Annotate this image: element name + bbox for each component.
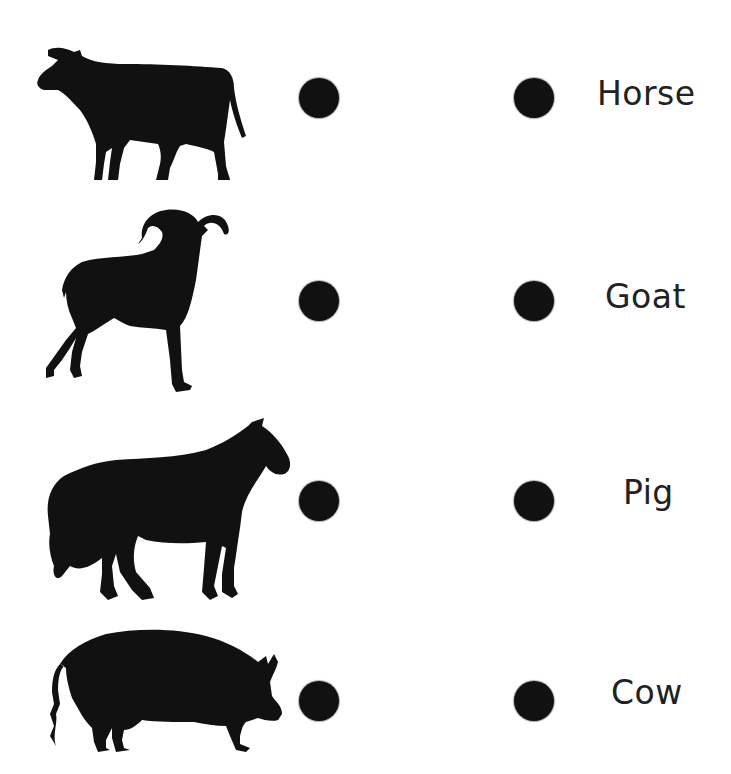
right-match-dot-2[interactable]	[514, 281, 554, 321]
left-match-dot-3[interactable]	[299, 481, 339, 521]
left-match-dot-1[interactable]	[299, 78, 339, 118]
animal-label-1: Horse	[597, 77, 696, 110]
left-match-dot-4[interactable]	[299, 681, 339, 721]
animal-label-3: Pig	[623, 476, 674, 509]
pig-silhouette-icon	[46, 622, 286, 752]
goat-silhouette-icon	[42, 200, 234, 400]
cow-silhouette-icon	[36, 44, 248, 184]
animal-label-4: Cow	[611, 676, 683, 709]
horse-silhouette-icon	[46, 416, 296, 602]
right-match-dot-1[interactable]	[514, 78, 554, 118]
right-match-dot-4[interactable]	[514, 681, 554, 721]
left-match-dot-2[interactable]	[299, 281, 339, 321]
animal-label-2: Goat	[605, 280, 686, 313]
right-match-dot-3[interactable]	[514, 481, 554, 521]
